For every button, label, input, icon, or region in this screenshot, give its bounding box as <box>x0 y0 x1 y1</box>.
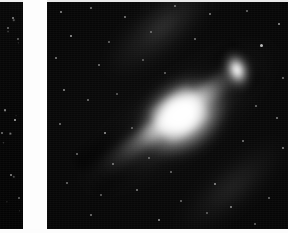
film-grain-left <box>0 2 23 229</box>
star-point <box>4 109 6 111</box>
plate-gutter <box>23 0 47 233</box>
bright-foreground-star <box>177 104 193 120</box>
star-point <box>1 132 3 134</box>
star-point <box>18 197 20 199</box>
main-plate-top-edge <box>47 0 288 2</box>
main-plate <box>47 2 288 229</box>
star-point <box>12 17 14 19</box>
plate-bottom-edge <box>0 229 288 233</box>
star-point <box>7 27 9 29</box>
left-plate-fragment <box>0 2 23 229</box>
starfield-left <box>0 2 23 229</box>
plate-scan-page <box>0 0 288 233</box>
star-point <box>17 38 19 40</box>
star-point <box>10 174 12 176</box>
star-point <box>14 119 17 122</box>
